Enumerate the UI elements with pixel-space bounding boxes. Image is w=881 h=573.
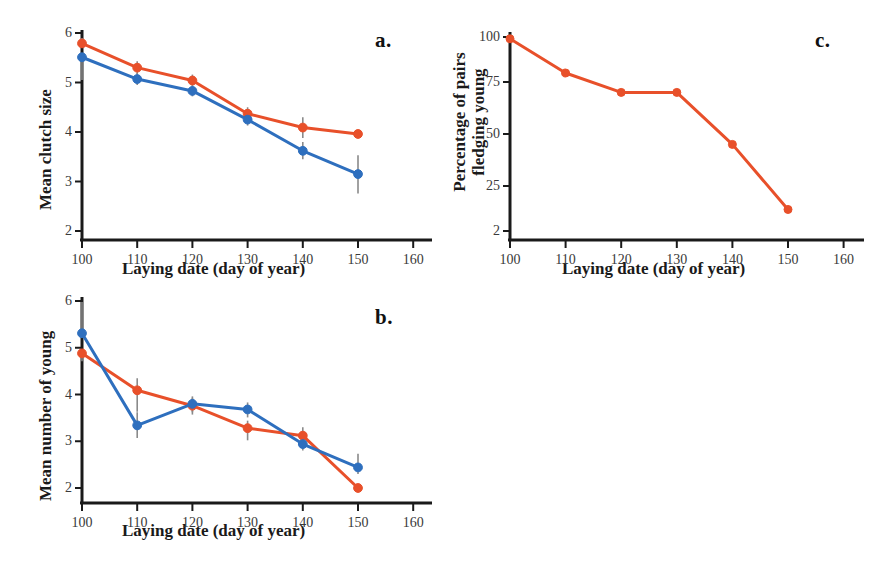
x-tick-label: 120 — [182, 252, 203, 268]
panel-b: b. Laying date (day of year) Mean number… — [0, 285, 440, 573]
x-tick-label: 120 — [182, 515, 203, 531]
panel-b-x-axis-title: Laying date (day of year) — [122, 521, 305, 541]
y-tick-label: 6 — [40, 25, 72, 41]
data-point-blue — [354, 463, 363, 472]
x-tick-label: 120 — [611, 252, 632, 268]
data-point-orange — [562, 69, 570, 77]
y-tick-label: 2 — [40, 223, 72, 239]
panel-c-letter: c. — [815, 28, 831, 53]
panel-a-x-axis-title: Laying date (day of year) — [122, 259, 305, 279]
panel-a-y-axis-title: Mean clutch size — [36, 89, 56, 210]
panel-b-y-axis-title: Mean number of young — [36, 331, 56, 501]
data-point-orange — [298, 123, 307, 132]
x-tick-label: 100 — [72, 515, 93, 531]
data-point-orange — [188, 76, 197, 85]
data-point-blue — [78, 329, 87, 338]
y-tick-label: 5 — [40, 75, 72, 91]
panel-c: c. Laying date (day of year) Percentage … — [440, 0, 881, 290]
x-tick-label: 100 — [500, 252, 521, 268]
panel-a-letter: a. — [375, 28, 392, 53]
panel-a: a. Laying date (day of year) Mean clutch… — [0, 0, 440, 290]
x-tick-label: 110 — [127, 515, 147, 531]
y-tick-label: 25 — [468, 178, 500, 194]
y-tick-label: 50 — [468, 126, 500, 142]
data-point-blue — [133, 421, 142, 430]
data-point-orange — [298, 431, 307, 440]
x-tick-label: 140 — [722, 252, 743, 268]
x-tick-label: 160 — [403, 252, 424, 268]
data-point-orange — [728, 140, 736, 148]
series-line-orange — [510, 39, 788, 210]
data-point-orange — [243, 424, 252, 433]
data-point-blue — [188, 399, 197, 408]
data-point-orange — [133, 63, 142, 72]
figure-root: a. Laying date (day of year) Mean clutch… — [0, 0, 881, 573]
panel-a-plot — [0, 0, 440, 290]
series-line-blue — [82, 57, 358, 174]
data-point-orange — [506, 35, 514, 43]
x-tick-label: 160 — [403, 515, 424, 531]
data-point-blue — [133, 75, 142, 84]
x-tick-label: 110 — [127, 252, 147, 268]
data-point-orange — [673, 88, 681, 96]
data-point-blue — [298, 440, 307, 449]
x-tick-label: 130 — [666, 252, 687, 268]
data-point-blue — [243, 405, 252, 414]
y-tick-label: 2 — [468, 223, 500, 239]
x-tick-label: 150 — [348, 515, 369, 531]
data-point-orange — [78, 39, 87, 48]
series-line-orange — [82, 353, 358, 488]
y-tick-label: 6 — [40, 293, 72, 309]
data-point-blue — [354, 170, 363, 179]
x-tick-label: 100 — [72, 252, 93, 268]
x-tick-label: 160 — [833, 252, 854, 268]
panel-b-letter: b. — [375, 305, 393, 330]
y-tick-label: 3 — [40, 433, 72, 449]
x-tick-label: 150 — [348, 252, 369, 268]
x-tick-label: 130 — [237, 515, 258, 531]
data-point-orange — [78, 349, 87, 358]
x-tick-label: 150 — [778, 252, 799, 268]
data-point-orange — [354, 484, 363, 493]
x-tick-label: 110 — [555, 252, 575, 268]
data-point-blue — [188, 87, 197, 96]
y-tick-label: 75 — [468, 74, 500, 90]
data-point-orange — [784, 205, 792, 213]
y-tick-label: 100 — [468, 29, 500, 45]
data-point-orange — [617, 88, 625, 96]
panel-c-x-axis-title: Laying date (day of year) — [562, 259, 745, 279]
y-tick-label: 3 — [40, 174, 72, 190]
data-point-orange — [354, 130, 363, 139]
y-tick-label: 5 — [40, 340, 72, 356]
data-point-blue — [298, 146, 307, 155]
panel-c-y-axis-title-line1: Percentage of pairs — [450, 22, 469, 222]
x-tick-label: 140 — [292, 252, 313, 268]
series-line-orange — [82, 43, 358, 134]
x-tick-label: 140 — [292, 515, 313, 531]
x-tick-label: 130 — [237, 252, 258, 268]
data-point-blue — [243, 115, 252, 124]
data-point-orange — [133, 386, 142, 395]
y-tick-label: 2 — [40, 480, 72, 496]
y-tick-label: 4 — [40, 387, 72, 403]
data-point-blue — [78, 53, 87, 62]
y-tick-label: 4 — [40, 124, 72, 140]
